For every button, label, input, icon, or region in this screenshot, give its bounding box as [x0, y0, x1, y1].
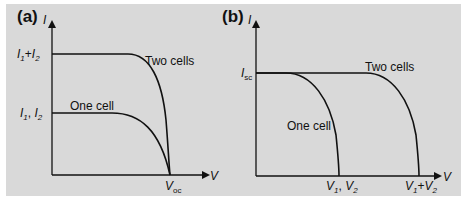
iv-curve-figure: (a) I V I1+I2 I1, I2 Voc Two cells One c… — [0, 0, 466, 206]
panel-a-x-axis-label: V — [210, 169, 219, 183]
panel-b-xtick-single: V1, V2 — [326, 179, 358, 195]
panel-a-ytick-sum: I1+I2 — [17, 47, 40, 63]
panel-a-curve-one-cell — [52, 113, 170, 175]
panel-a-label: (a) — [17, 7, 38, 26]
panel-b-x-axis-label: V — [443, 170, 452, 184]
panel-b: (b) I V Isc V1, V2 V1+V2 Two cells One c… — [222, 7, 452, 195]
panel-a-y-axis-label: I — [43, 13, 47, 27]
panel-b-label-one-cell: One cell — [287, 119, 331, 133]
panel-a-xtick-voc: Voc — [165, 179, 181, 195]
panel-a-label-one-cell: One cell — [70, 99, 114, 113]
panel-a: (a) I V I1+I2 I1, I2 Voc Two cells One c… — [17, 7, 219, 195]
panel-a-ytick-single: I1, I2 — [20, 106, 43, 122]
panel-b-label: (b) — [222, 7, 244, 26]
panel-b-ytick-isc: Isc — [241, 66, 252, 82]
panel-a-label-two-cells: Two cells — [145, 54, 194, 68]
panel-b-xtick-sum: V1+V2 — [405, 179, 438, 195]
panel-b-y-axis-label: I — [248, 13, 252, 27]
panel-b-label-two-cells: Two cells — [365, 60, 414, 74]
panel-a-curve-two-cells — [52, 54, 170, 175]
